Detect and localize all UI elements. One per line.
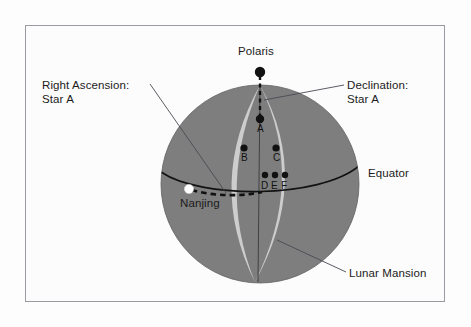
star-label-c: C — [273, 153, 280, 163]
label-right-ascension: Right Ascension: Star A — [42, 79, 129, 106]
star-c-dot — [272, 144, 279, 151]
star-label-f: F — [281, 181, 287, 191]
star-label-d: D — [261, 181, 268, 191]
label-polaris: Polaris — [238, 45, 274, 59]
figure-root: A B C D E F Polaris Right Ascension: Sta… — [0, 0, 471, 327]
star-label-e: E — [271, 181, 278, 191]
label-lunar-mansion: Lunar Mansion — [349, 267, 426, 281]
nanjing-marker — [184, 184, 193, 193]
label-declination: Declination: Star A — [347, 79, 408, 106]
star-label-b: B — [241, 153, 248, 163]
star-a-dot — [256, 115, 264, 123]
star-d-dot — [262, 172, 268, 178]
star-b-dot — [240, 144, 247, 151]
label-equator: Equator — [368, 167, 409, 181]
star-label-a: A — [257, 124, 264, 134]
star-polaris-dot — [255, 67, 265, 77]
label-nanjing: Nanjing — [180, 197, 220, 211]
star-e-dot — [272, 172, 278, 178]
star-f-dot — [282, 172, 288, 178]
